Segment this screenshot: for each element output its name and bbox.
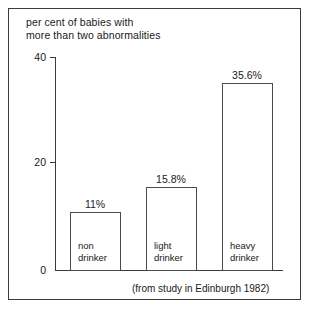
plot-area: 40 20 0 11% non drinker 15.8% light drin…	[0, 0, 311, 309]
bar-value-label-light-drinker: 15.8%	[136, 174, 206, 185]
y-tick-label-20-wrap: 20	[8, 157, 46, 167]
y-tick-mark-40	[50, 57, 56, 58]
y-tick-label-40-wrap: 40	[8, 52, 46, 62]
bar-non-drinker[interactable]: non drinker	[70, 212, 121, 271]
bar-value-label-heavy-drinker: 35.6%	[212, 70, 282, 81]
bar-value-label-non-drinker: 11%	[60, 199, 130, 210]
chart-page: per cent of babies with more than two ab…	[0, 0, 311, 309]
y-tick-label-0: 0	[10, 265, 46, 275]
y-tick-mark-20	[50, 162, 56, 163]
y-tick-label-20: 20	[10, 157, 46, 167]
y-tick-label-40: 40	[10, 52, 46, 62]
bar-light-drinker[interactable]: light drinker	[146, 187, 197, 271]
bar-category-label-non-drinker: non drinker	[78, 240, 107, 264]
bar-category-label-heavy-drinker: heavy drinker	[230, 240, 259, 264]
y-axis-line	[55, 57, 56, 271]
y-tick-label-0-wrap: 0	[8, 265, 46, 275]
chart-source-annotation: (from study in Edinburgh 1982)	[132, 283, 269, 295]
bar-heavy-drinker[interactable]: heavy drinker	[222, 83, 273, 271]
bar-category-label-light-drinker: light drinker	[154, 240, 183, 264]
